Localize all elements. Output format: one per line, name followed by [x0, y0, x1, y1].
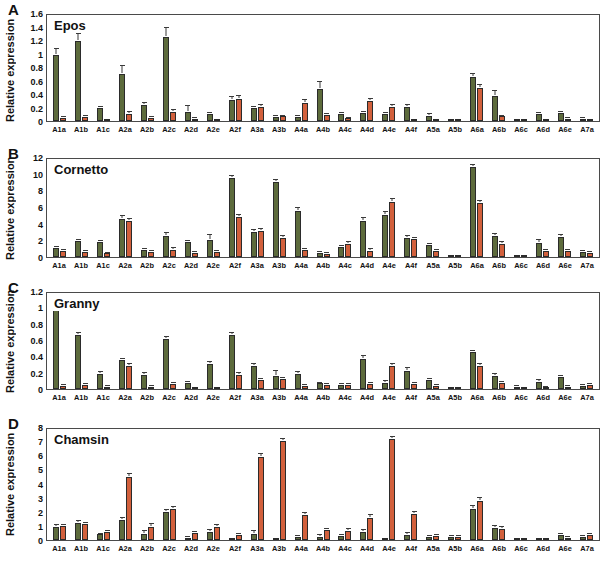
- error-bar: [429, 378, 430, 380]
- error-bar: [407, 235, 408, 237]
- error-bar-cap: [142, 102, 147, 103]
- bar-red: [302, 515, 308, 540]
- error-bar-cap: [390, 436, 395, 437]
- error-bar: [173, 382, 174, 383]
- error-bar: [326, 383, 327, 384]
- error-bar-cap: [207, 529, 212, 530]
- bar-series-container: [47, 293, 599, 389]
- error-bar-cap: [98, 533, 103, 534]
- x-axis-labels-a: A1aA1bA1cA2aA2bA2cA2dA2eA2fA3aA3bA4aA4bA…: [46, 125, 600, 134]
- bar-red: [236, 535, 242, 540]
- error-bar-cap: [339, 112, 344, 113]
- bar-red: [236, 217, 242, 257]
- bar-red: [433, 536, 439, 540]
- error-bar: [63, 384, 64, 385]
- error-bar: [297, 535, 298, 536]
- x-tick-label: A4b: [312, 261, 334, 270]
- bar-green: [580, 252, 586, 257]
- x-tick-label: A6d: [532, 125, 554, 134]
- bar-group: [49, 429, 71, 540]
- error-bar-cap: [412, 511, 417, 512]
- x-tick-label: A4f: [400, 393, 422, 402]
- error-bar: [392, 198, 393, 201]
- bar-group: [334, 429, 356, 540]
- error-bar-cap: [207, 361, 212, 362]
- error-bar-cap: [61, 249, 66, 250]
- error-bar: [231, 96, 232, 99]
- error-bar: [472, 505, 473, 508]
- plot-frame-a: Epos: [46, 14, 600, 122]
- bar-group: [71, 429, 93, 540]
- y-axis-ticks-a: 00.20.40.60.811.21.41.6: [18, 14, 46, 122]
- error-bar-cap: [390, 198, 395, 199]
- bar-green: [163, 339, 169, 389]
- bar-red: [324, 530, 330, 540]
- bar-red: [345, 531, 351, 540]
- error-bar-cap: [273, 179, 278, 180]
- plot-frame-b: Cornetto: [46, 158, 600, 258]
- bar-group: [202, 429, 224, 540]
- error-bar: [122, 517, 123, 519]
- y-tick-label: 1.4: [30, 23, 43, 33]
- bar-green: [141, 105, 147, 121]
- x-tick-label: A4c: [334, 544, 356, 553]
- error-bar: [122, 215, 123, 217]
- bar-group: [487, 159, 509, 257]
- y-tick-label: 6: [38, 203, 43, 213]
- bar-group: [487, 15, 509, 121]
- error-bar: [151, 250, 152, 251]
- error-bar: [297, 207, 298, 209]
- error-bar-cap: [120, 215, 125, 216]
- error-bar: [589, 533, 590, 534]
- bar-red: [302, 103, 308, 121]
- error-bar-cap: [185, 240, 190, 241]
- bar-green: [163, 236, 169, 258]
- error-bar: [231, 332, 232, 334]
- bar-red: [499, 383, 505, 389]
- bar-red: [258, 457, 264, 540]
- bar-group: [181, 15, 203, 121]
- bar-green: [558, 113, 564, 121]
- error-bar: [429, 535, 430, 536]
- error-bar-cap: [185, 381, 190, 382]
- x-tick-label: A4f: [400, 261, 422, 270]
- y-tick-label: 1: [38, 50, 43, 60]
- error-bar-cap: [499, 115, 504, 116]
- error-bar: [479, 84, 480, 87]
- error-bar-cap: [383, 211, 388, 212]
- bar-red: [455, 255, 461, 257]
- bar-green: [53, 527, 59, 540]
- error-bar: [78, 33, 79, 40]
- bar-red: [433, 119, 439, 121]
- bar-group: [159, 15, 181, 121]
- plot-area-a: 00.20.40.60.811.21.41.6Epos: [18, 14, 600, 122]
- bar-group: [553, 293, 575, 389]
- error-bar-cap: [477, 200, 482, 201]
- bar-red: [389, 107, 395, 121]
- error-bar-cap: [149, 250, 154, 251]
- error-bar: [78, 332, 79, 334]
- bar-green: [53, 248, 59, 257]
- error-bar: [479, 200, 480, 202]
- x-tick-label: A1b: [70, 125, 92, 134]
- bar-group: [487, 293, 509, 389]
- bar-group: [115, 293, 137, 389]
- error-bar-cap: [346, 117, 351, 118]
- bar-red: [170, 384, 176, 389]
- error-bar: [107, 252, 108, 253]
- bar-green: [382, 215, 388, 257]
- bar-green: [360, 532, 366, 540]
- error-bar-cap: [192, 117, 197, 118]
- bar-group: [531, 159, 553, 257]
- bar-green: [360, 113, 366, 121]
- error-bar-cap: [302, 384, 307, 385]
- bar-group: [246, 293, 268, 389]
- bar-red: [543, 538, 549, 540]
- x-tick-label: A2f: [224, 125, 246, 134]
- error-bar-cap: [580, 384, 585, 385]
- bar-red: [587, 253, 593, 257]
- error-bar-cap: [412, 382, 417, 383]
- x-tick-label: A6a: [466, 544, 488, 553]
- bar-red: [60, 251, 66, 257]
- x-tick-label: A4a: [290, 544, 312, 553]
